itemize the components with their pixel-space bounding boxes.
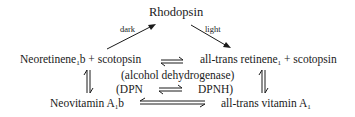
all-trans-vitamin-label: all-trans vitamin A1 [221, 98, 311, 110]
dpn-equilibrium-icon [159, 85, 182, 94]
alcohol-dehydrogenase-label: (alcohol dehydrogenase) [121, 70, 234, 82]
dpnh-label: DPNH) [198, 84, 233, 96]
row1-equilibrium-icon [161, 57, 183, 66]
rhodopsin-label: Rhodopsin [149, 6, 203, 19]
neovitamin-label: Neovitamin A1b [50, 98, 124, 110]
dpn-label: (DPN [116, 84, 143, 96]
dark-label: dark [120, 25, 135, 34]
neoretinene-scotopsin-label: Neoretinene1b + scotopsin [20, 54, 141, 66]
right-vertical-equilibrium-icon [259, 70, 268, 93]
left-vertical-equilibrium-icon [84, 70, 93, 93]
row2-equilibrium-icon [140, 98, 205, 107]
light-label: light [205, 25, 221, 34]
all-trans-retinene-scotopsin-label: all-trans retinene1 + scotopsin [200, 54, 337, 66]
